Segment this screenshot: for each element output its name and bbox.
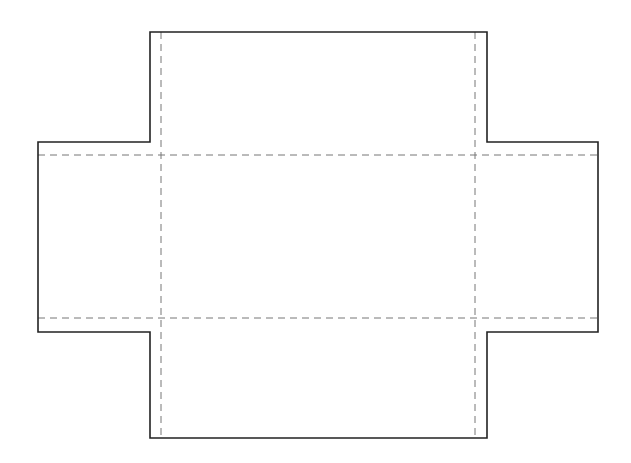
box-net-diagram <box>0 0 631 463</box>
cut-outline <box>38 32 598 438</box>
fold-lines <box>38 32 598 438</box>
